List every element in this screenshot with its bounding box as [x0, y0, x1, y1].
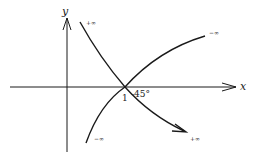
- angle-label: -45°: [131, 89, 150, 99]
- x-tick-label-1: 1: [122, 93, 128, 103]
- decreasing-curve-end-label: +∞: [190, 135, 200, 142]
- increasing-curve-end-label: −∞: [209, 29, 219, 36]
- decreasing-curve-start-label: +∞: [86, 19, 96, 26]
- x-axis-label: x: [240, 80, 247, 93]
- increasing-curve-start-label: −∞: [94, 135, 104, 142]
- decreasing-curve: [80, 22, 184, 131]
- diagram-canvas: y x +∞ +∞ −∞ −∞ 1 -45°: [0, 0, 255, 159]
- y-axis: [63, 18, 71, 152]
- y-axis-label: y: [61, 5, 69, 18]
